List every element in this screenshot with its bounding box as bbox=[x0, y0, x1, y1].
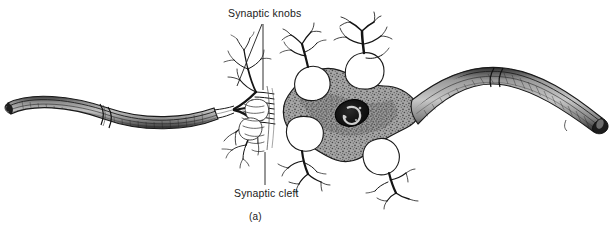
dendrite-upper-left bbox=[280, 23, 330, 101]
synapse-figure: Synaptic knobs Synaptic cleft (a) bbox=[0, 0, 612, 242]
dendrite-lower-left bbox=[278, 116, 330, 193]
figure-caption: (a) bbox=[249, 211, 262, 222]
label-synaptic-knobs: Synaptic knobs bbox=[228, 7, 301, 19]
dendrite-lower-right bbox=[363, 138, 418, 209]
synapse-illustration bbox=[0, 0, 612, 242]
postsynaptic-myelinated-axon bbox=[411, 67, 608, 133]
label-synaptic-cleft: Synaptic cleft bbox=[234, 187, 299, 199]
presynaptic-myelinated-axon bbox=[5, 96, 234, 134]
